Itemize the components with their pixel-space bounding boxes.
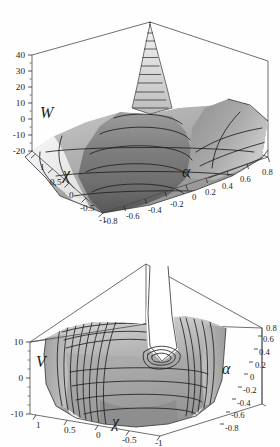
plot-w-canvas: 40 30 20 10 0 -10 -20 W 1 0.5 0 -0.5 -1 … xyxy=(0,0,280,224)
plot-v-ytick-1: 0.6 xyxy=(263,334,274,344)
plot-v-xtick-2: 0 xyxy=(96,430,101,440)
plot-w-ztick-6: -20 xyxy=(13,146,26,156)
plot-v-ytick-3: 0.2 xyxy=(255,360,266,370)
plot-w-ztick-1: 30 xyxy=(16,66,26,76)
plot-w-xtick-3: -0.5 xyxy=(80,203,95,213)
plot-w-ytick-2: -0.4 xyxy=(148,205,162,215)
plot-v-xaxis-label: χ xyxy=(110,413,120,431)
plot-v-canvas: 10 0 -10 V 1 0.5 0 -0.5 -1 χ xyxy=(0,224,280,447)
plot-w-ytick-7: 0.6 xyxy=(240,174,251,184)
plot-w-ytick-8: 0.8 xyxy=(262,167,273,177)
plot-v-xtick-3: -0.5 xyxy=(122,435,137,445)
plot-w-surface xyxy=(25,99,268,213)
plot-w-ytick-6: 0.4 xyxy=(222,181,233,191)
plot-v-surface xyxy=(44,316,226,430)
plot-w-xaxis-label: χ xyxy=(61,165,71,183)
plot-w-spike xyxy=(132,22,172,114)
plot-w-xtick-1: 0.5 xyxy=(50,177,62,187)
plot-w-ztick-4: 0 xyxy=(20,114,25,124)
plot-v-ytick-7: -0.6 xyxy=(231,410,245,420)
plot-w-ytick-4: 0 xyxy=(192,192,196,202)
plot-v-ztick-0: 10 xyxy=(14,337,24,347)
plot-w-yaxis-label: α xyxy=(182,163,191,180)
plot-v-ztick-2: -10 xyxy=(11,409,24,419)
plot-w-ztick-2: 20 xyxy=(16,82,26,92)
plot-v-xtick-4: -1 xyxy=(155,438,163,447)
plot-w-xtick-2: 0 xyxy=(69,190,74,200)
plot-w-zaxis-label: W xyxy=(40,104,55,121)
plot-v-singularity-gap xyxy=(146,266,178,362)
plot-v-ytick-4: 0 xyxy=(250,372,254,382)
plot-v-xtick-0: 1 xyxy=(36,420,41,430)
plot-w-ytick-0: -0.8 xyxy=(104,216,118,224)
plot-w-ztick-3: 10 xyxy=(16,98,26,108)
plot-v-ytick-5: -0.2 xyxy=(243,385,257,395)
plot-w-ytick-5: 0.2 xyxy=(205,187,216,197)
plot-w-xtick-0: 1 xyxy=(40,162,45,172)
surface-plot-w: 40 30 20 10 0 -10 -20 W 1 0.5 0 -0.5 -1 … xyxy=(0,0,280,224)
plot-v-ytick-2: 0.4 xyxy=(259,347,270,357)
plot-v-zaxis: 10 0 -10 V xyxy=(11,337,48,419)
plot-w-ytick-1: -0.6 xyxy=(126,211,140,221)
plot-v-xtick-1: 0.5 xyxy=(64,425,76,435)
plot-w-ztick-0: 40 xyxy=(16,50,26,60)
surface-plot-v: 10 0 -10 V 1 0.5 0 -0.5 -1 χ xyxy=(0,224,280,447)
plot-w-ytick-3: -0.2 xyxy=(170,199,184,209)
plot-w-ztick-5: -10 xyxy=(13,130,26,140)
plot-v-yaxis-label: α xyxy=(222,360,231,377)
plot-v-ytick-6: -0.4 xyxy=(237,398,251,408)
plot-v-ytick-0: 0.8 xyxy=(266,323,277,333)
plot-v-ztick-1: 0 xyxy=(18,373,23,383)
plot-v-ytick-8: -0.8 xyxy=(225,423,239,433)
